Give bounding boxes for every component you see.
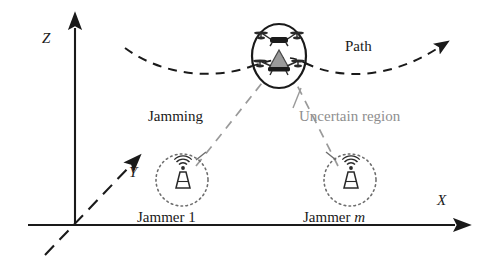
x-axis-label: X <box>437 192 446 209</box>
jammer-m-uncertain-circle <box>324 154 376 206</box>
antenna-tower-icon <box>174 156 191 188</box>
uncertain-region-label: Uncertain region <box>299 108 400 125</box>
jammer-m-label: Jammer m <box>303 209 365 226</box>
z-axis-label: Z <box>42 30 50 47</box>
jammer-1-label: Jammer 1 <box>137 209 196 226</box>
path-segment-left <box>125 48 252 74</box>
jamming-label: Jamming <box>148 108 203 125</box>
jammer-m-label-prefix: Jammer <box>303 209 354 225</box>
y-axis-label: Y <box>129 164 137 181</box>
axis-y <box>45 166 130 255</box>
jammer-m-radius-tick <box>326 152 336 160</box>
uncertain-region-leader-line <box>293 88 301 108</box>
jammer-m-group <box>324 152 376 206</box>
y-axis-line <box>45 166 130 255</box>
jammer-1-uncertain-circle <box>156 154 208 206</box>
antenna-tower-icon <box>342 156 359 188</box>
path-label: Path <box>345 38 372 55</box>
jamming-link-jammer-1 <box>196 83 262 166</box>
jammer-m-label-index: m <box>354 209 365 225</box>
diagram-canvas: Z Y X Path Jamming Uncertain region Jamm… <box>0 0 495 266</box>
diagram-vector-layer <box>0 0 495 266</box>
